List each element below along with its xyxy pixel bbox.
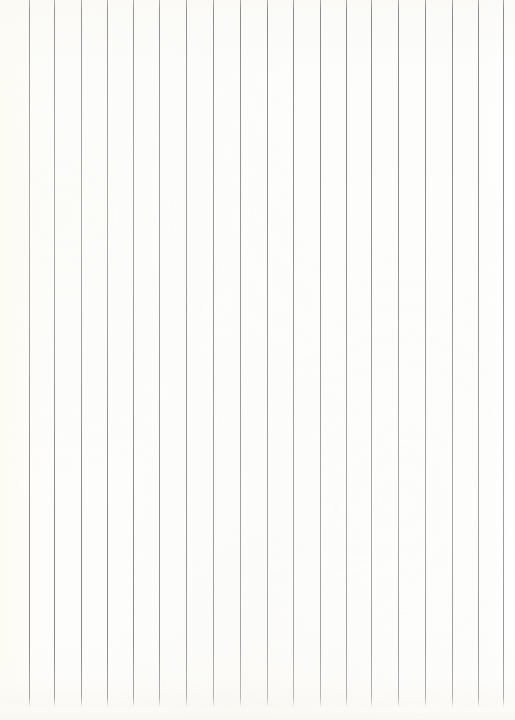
- rule-line: [371, 0, 372, 713]
- ruling-lines-group: [0, 0, 515, 720]
- rule-line: [107, 0, 108, 713]
- rule-line: [503, 0, 504, 713]
- rule-line: [425, 0, 426, 713]
- rule-line: [186, 0, 187, 713]
- rule-line: [478, 0, 479, 713]
- bottom-blank-margin: [0, 703, 515, 720]
- rule-line: [81, 0, 82, 713]
- rule-line: [54, 0, 55, 713]
- rule-line: [240, 0, 241, 713]
- rule-line: [346, 0, 347, 713]
- rule-line: [29, 0, 30, 713]
- rule-line: [398, 0, 399, 713]
- rule-line: [159, 0, 160, 713]
- paper-sheet: [0, 0, 515, 720]
- rule-line: [267, 0, 268, 713]
- rule-line: [213, 0, 214, 713]
- rule-line: [452, 0, 453, 713]
- rule-line: [133, 0, 134, 713]
- rule-line: [320, 0, 321, 713]
- rule-line: [293, 0, 294, 713]
